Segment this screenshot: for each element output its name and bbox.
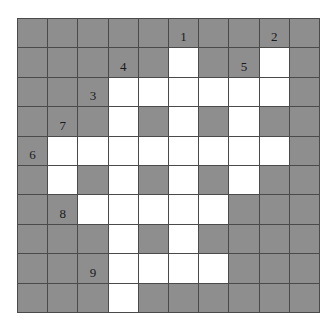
open-cell[interactable] bbox=[169, 107, 198, 135]
open-cell[interactable] bbox=[169, 48, 198, 76]
blocked-cell bbox=[199, 166, 228, 194]
open-cell[interactable] bbox=[139, 78, 168, 106]
blocked-cell bbox=[109, 19, 138, 47]
blocked-cell bbox=[260, 254, 289, 282]
open-cell[interactable] bbox=[48, 166, 77, 194]
blocked-cell bbox=[199, 107, 228, 135]
open-cell[interactable] bbox=[229, 166, 258, 194]
open-cell[interactable] bbox=[199, 78, 228, 106]
open-cell[interactable] bbox=[48, 137, 77, 165]
blocked-cell bbox=[290, 78, 319, 106]
open-cell[interactable] bbox=[229, 137, 258, 165]
open-cell[interactable] bbox=[229, 78, 258, 106]
open-cell[interactable] bbox=[78, 195, 107, 223]
blocked-cell bbox=[18, 254, 47, 282]
open-cell[interactable] bbox=[169, 137, 198, 165]
open-cell[interactable] bbox=[139, 195, 168, 223]
blocked-cell: 6 bbox=[18, 137, 47, 165]
blocked-cell bbox=[260, 166, 289, 194]
blocked-cell bbox=[139, 48, 168, 76]
open-cell[interactable] bbox=[169, 166, 198, 194]
open-cell[interactable] bbox=[169, 225, 198, 253]
blocked-cell bbox=[169, 284, 198, 312]
blocked-cell bbox=[18, 225, 47, 253]
blocked-cell: 1 bbox=[169, 19, 198, 47]
blocked-cell bbox=[48, 48, 77, 76]
open-cell[interactable] bbox=[109, 78, 138, 106]
open-cell[interactable] bbox=[229, 107, 258, 135]
blocked-cell: 3 bbox=[78, 78, 107, 106]
blocked-cell bbox=[260, 284, 289, 312]
clue-number: 3 bbox=[78, 89, 107, 102]
blocked-cell bbox=[229, 284, 258, 312]
blocked-cell: 2 bbox=[260, 19, 289, 47]
open-cell[interactable] bbox=[109, 284, 138, 312]
open-cell[interactable] bbox=[199, 254, 228, 282]
blocked-cell: 8 bbox=[48, 195, 77, 223]
blocked-cell bbox=[18, 284, 47, 312]
blocked-cell bbox=[48, 78, 77, 106]
blocked-cell bbox=[260, 195, 289, 223]
open-cell[interactable] bbox=[109, 195, 138, 223]
blocked-cell bbox=[229, 254, 258, 282]
clue-number: 2 bbox=[260, 30, 289, 43]
open-cell[interactable] bbox=[78, 137, 107, 165]
open-cell[interactable] bbox=[260, 137, 289, 165]
open-cell[interactable] bbox=[169, 254, 198, 282]
open-cell[interactable] bbox=[199, 195, 228, 223]
blocked-cell bbox=[18, 19, 47, 47]
blocked-cell: 5 bbox=[229, 48, 258, 76]
open-cell[interactable] bbox=[169, 195, 198, 223]
blocked-cell: 4 bbox=[109, 48, 138, 76]
blocked-cell bbox=[78, 19, 107, 47]
blocked-cell bbox=[290, 254, 319, 282]
open-cell[interactable] bbox=[199, 137, 228, 165]
blocked-cell bbox=[199, 19, 228, 47]
blocked-cell bbox=[78, 107, 107, 135]
open-cell[interactable] bbox=[169, 78, 198, 106]
open-cell[interactable] bbox=[109, 166, 138, 194]
blocked-cell bbox=[290, 48, 319, 76]
open-cell[interactable] bbox=[109, 225, 138, 253]
blocked-cell bbox=[290, 107, 319, 135]
blocked-cell bbox=[229, 225, 258, 253]
blocked-cell bbox=[199, 284, 228, 312]
blocked-cell bbox=[260, 107, 289, 135]
open-cell[interactable] bbox=[260, 48, 289, 76]
blocked-cell bbox=[78, 225, 107, 253]
blocked-cell bbox=[260, 225, 289, 253]
blocked-cell bbox=[199, 225, 228, 253]
blocked-cell bbox=[18, 195, 47, 223]
blocked-cell bbox=[139, 225, 168, 253]
open-cell[interactable] bbox=[139, 254, 168, 282]
blocked-cell bbox=[290, 166, 319, 194]
blocked-cell bbox=[229, 195, 258, 223]
blocked-cell bbox=[18, 166, 47, 194]
open-cell[interactable] bbox=[109, 254, 138, 282]
blocked-cell bbox=[290, 284, 319, 312]
blocked-cell bbox=[139, 107, 168, 135]
clue-number: 4 bbox=[109, 60, 138, 73]
blocked-cell bbox=[78, 166, 107, 194]
blocked-cell bbox=[48, 19, 77, 47]
blocked-cell bbox=[48, 225, 77, 253]
blocked-cell bbox=[139, 284, 168, 312]
clue-number: 9 bbox=[78, 266, 107, 279]
blocked-cell bbox=[18, 107, 47, 135]
open-cell[interactable] bbox=[109, 137, 138, 165]
blocked-cell bbox=[139, 166, 168, 194]
blocked-cell bbox=[229, 19, 258, 47]
open-cell[interactable] bbox=[139, 137, 168, 165]
clue-number: 1 bbox=[169, 30, 198, 43]
blocked-cell bbox=[199, 48, 228, 76]
blocked-cell bbox=[290, 225, 319, 253]
blocked-cell bbox=[18, 78, 47, 106]
clue-number: 5 bbox=[229, 60, 258, 73]
blocked-cell: 7 bbox=[48, 107, 77, 135]
blocked-cell: 9 bbox=[78, 254, 107, 282]
blocked-cell bbox=[48, 284, 77, 312]
blocked-cell bbox=[48, 254, 77, 282]
open-cell[interactable] bbox=[260, 78, 289, 106]
open-cell[interactable] bbox=[109, 107, 138, 135]
blocked-cell bbox=[18, 48, 47, 76]
